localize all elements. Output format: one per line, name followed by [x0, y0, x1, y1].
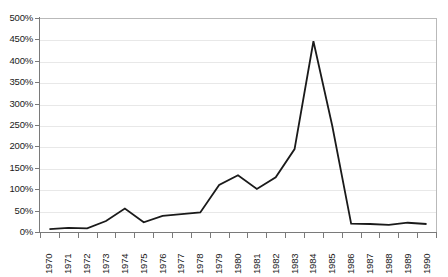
- line-chart: 500%450%400%350%300%250%200%150%100%50%0…: [0, 0, 448, 277]
- y-tick-label: 150%: [0, 163, 33, 173]
- x-tick-label: 1989: [402, 238, 414, 274]
- y-tick-label: 450%: [0, 34, 33, 44]
- x-tick-label: 1985: [326, 238, 338, 274]
- x-tick-label: 1971: [62, 238, 74, 274]
- x-axis: 1970197119721973197419751976197719781979…: [0, 238, 448, 277]
- y-axis-line: [39, 17, 40, 233]
- x-tick-label: 1977: [175, 238, 187, 274]
- x-tick-label: 1973: [100, 238, 112, 274]
- x-tick-label: 1981: [251, 238, 263, 274]
- y-tick-label: 100%: [0, 184, 33, 194]
- y-tick-label: 350%: [0, 77, 33, 87]
- plot-area: [40, 18, 437, 233]
- x-tick-label: 1972: [81, 238, 93, 274]
- y-tick-label: 200%: [0, 141, 33, 151]
- x-tick-label: 1988: [383, 238, 395, 274]
- y-tick-label: 250%: [0, 120, 33, 130]
- x-axis-line: [39, 232, 437, 233]
- x-tick-label: 1979: [213, 238, 225, 274]
- x-tick-label: 1980: [232, 238, 244, 274]
- x-tick-label: 1974: [119, 238, 131, 274]
- y-tick-label: 400%: [0, 56, 33, 66]
- y-tick-label: 500%: [0, 13, 33, 23]
- y-tick-label: 0%: [0, 227, 33, 237]
- x-tick-label: 1987: [364, 238, 376, 274]
- x-tick-label: 1976: [157, 238, 169, 274]
- x-tick-label: 1983: [289, 238, 301, 274]
- y-axis: 500%450%400%350%300%250%200%150%100%50%0…: [0, 0, 36, 277]
- x-tick-label: 1970: [43, 238, 55, 274]
- x-tick-label: 1986: [345, 238, 357, 274]
- x-tick-label: 1990: [421, 238, 433, 274]
- series-line-group: [40, 19, 436, 233]
- x-tick-label: 1982: [270, 238, 282, 274]
- y-tick-label: 300%: [0, 99, 33, 109]
- x-tick-label: 1978: [194, 238, 206, 274]
- x-tick-label: 1984: [307, 238, 319, 274]
- x-tick-label: 1975: [138, 238, 150, 274]
- series-line: [49, 41, 426, 229]
- y-tick-label: 50%: [0, 206, 33, 216]
